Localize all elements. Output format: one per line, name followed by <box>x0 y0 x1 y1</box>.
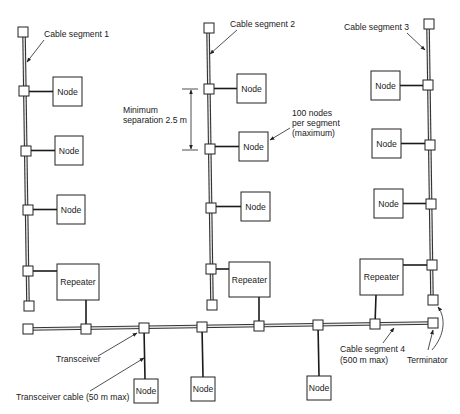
node-seg3-1: Node <box>372 129 401 158</box>
node-seg2-2: Node <box>241 192 270 221</box>
max-nodes-label-line1: 100 nodes <box>292 108 332 118</box>
terminator-seg1-1 <box>24 301 34 311</box>
min-separation-label-line1: Minimum <box>123 105 158 115</box>
node-seg1-2-label: Node <box>61 205 82 215</box>
transceiver-seg1-3 <box>23 266 33 276</box>
node-seg1-1-label: Node <box>59 146 80 156</box>
node-bottom-2: Node <box>191 377 215 401</box>
node-seg2-0-label: Node <box>241 84 262 94</box>
transceiver-cable-node-bottom-2 <box>202 327 203 377</box>
node-seg1-2: Node <box>57 195 85 224</box>
transceiver-label: Transceiver <box>56 354 101 364</box>
terminator-seg1-0 <box>18 27 28 37</box>
transceiver-seg2-2 <box>206 203 216 213</box>
transceiver-seg3-1 <box>425 140 435 150</box>
cable-segment-3-label: Cable segment 3 <box>344 22 409 32</box>
repeater-seg3-3: Repeater <box>360 259 403 295</box>
node-seg1-0: Node <box>53 77 82 106</box>
transceiver-cable-node-bottom-3 <box>318 325 319 376</box>
repeater-seg1-3-label: Repeater <box>60 277 95 287</box>
repeater-seg1-3: Repeater <box>57 264 99 300</box>
ethernet-topology-diagram: NodeNodeNodeRepeaterNodeNodeNodeRepeater… <box>0 0 460 414</box>
cable-segment-4-label-line2: (500 m max) <box>340 355 388 365</box>
arrow-cable-segment-4 <box>383 328 394 343</box>
transceiver-seg3-0 <box>423 80 433 90</box>
node-bottom-3: Node <box>307 376 331 400</box>
repeater-seg2-3-label: Repeater <box>232 275 267 285</box>
node-bottom-1-label: Node <box>136 386 157 396</box>
transceiver-seg4-0 <box>81 324 91 334</box>
terminator-seg3-1 <box>428 295 438 305</box>
cable-segment-1-label: Cable segment 1 <box>44 29 109 39</box>
terminator-seg4-1 <box>428 318 438 328</box>
terminator-seg3-0 <box>424 19 434 29</box>
cable-segment-4-label-line1: Cable segment 4 <box>340 344 405 354</box>
transceiver-cable-label: Transceiver cable (50 m max) <box>16 392 129 402</box>
transceiver-cable-node-bottom-1 <box>144 328 145 379</box>
node-seg2-1-label: Node <box>243 142 264 152</box>
transceiver-seg4-5 <box>370 319 380 329</box>
transceiver-seg4-4 <box>313 320 323 330</box>
arrow-transceiver <box>98 333 137 356</box>
transceiver-seg1-1 <box>21 146 31 156</box>
node-seg1-1: Node <box>55 136 83 165</box>
transceiver-seg1-2 <box>23 205 33 215</box>
cable-seg2 <box>208 28 212 305</box>
node-seg1-0-label: Node <box>57 87 78 97</box>
transceiver-seg2-1 <box>205 144 215 154</box>
node-seg3-1-label: Node <box>376 139 397 149</box>
arrow-seg1-label <box>27 40 44 62</box>
transceiver-seg2-3 <box>206 264 216 274</box>
node-seg3-0-label: Node <box>375 81 396 91</box>
max-nodes-label-line2: per segment <box>292 118 340 128</box>
terminator-seg2-1 <box>207 300 217 310</box>
node-bottom-1: Node <box>134 379 158 403</box>
node-seg3-2: Node <box>374 189 403 218</box>
terminator-seg4-0 <box>23 324 33 334</box>
transceiver-seg1-0 <box>19 86 29 96</box>
node-seg2-2-label: Node <box>245 202 266 212</box>
node-bottom-2-label: Node <box>193 384 214 394</box>
terminator-label: Terminator <box>407 355 448 365</box>
transceiver-seg3-2 <box>426 199 436 209</box>
arrow-max-nodes <box>270 128 290 140</box>
transceiver-seg3-3 <box>427 260 437 270</box>
transceiver-seg2-0 <box>204 84 214 94</box>
cable-seg3 <box>428 25 432 300</box>
node-seg3-0: Node <box>371 71 400 100</box>
transceiver-seg4-1 <box>139 323 149 333</box>
node-seg3-2-label: Node <box>378 199 399 209</box>
drop-cables-layer <box>29 86 427 380</box>
cable-segment-2-label: Cable segment 2 <box>230 19 295 29</box>
node-seg2-0: Node <box>237 74 266 103</box>
repeater-seg3-3-label: Repeater <box>364 272 399 282</box>
node-bottom-3-label: Node <box>309 383 330 393</box>
node-seg2-1: Node <box>239 132 268 161</box>
transceiver-seg4-3 <box>254 321 264 331</box>
arrow-seg3-label <box>407 33 425 50</box>
terminator-seg2-0 <box>204 23 214 33</box>
transceiver-seg4-2 <box>197 322 207 332</box>
arrow-seg2-label <box>210 30 237 54</box>
repeater-seg2-3: Repeater <box>229 262 270 297</box>
max-nodes-label-line3: (maximum) <box>292 128 335 138</box>
min-separation-label-line2: separation 2.5 m <box>123 115 187 125</box>
cable-seg1 <box>24 33 28 306</box>
arrow-terminator-backbone <box>428 330 433 350</box>
